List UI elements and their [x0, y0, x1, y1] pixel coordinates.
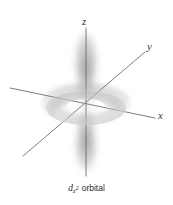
orbital-figure: z y x dz2orbital — [0, 0, 173, 205]
axis-label-y: y — [147, 41, 152, 52]
axis-label-z: z — [82, 16, 86, 27]
figure-caption: dz2orbital — [0, 183, 173, 194]
caption-word: orbital — [82, 183, 105, 193]
orbital-diagram — [0, 0, 173, 205]
axis-label-x: x — [158, 110, 163, 121]
caption-superscript: 2 — [75, 184, 78, 191]
